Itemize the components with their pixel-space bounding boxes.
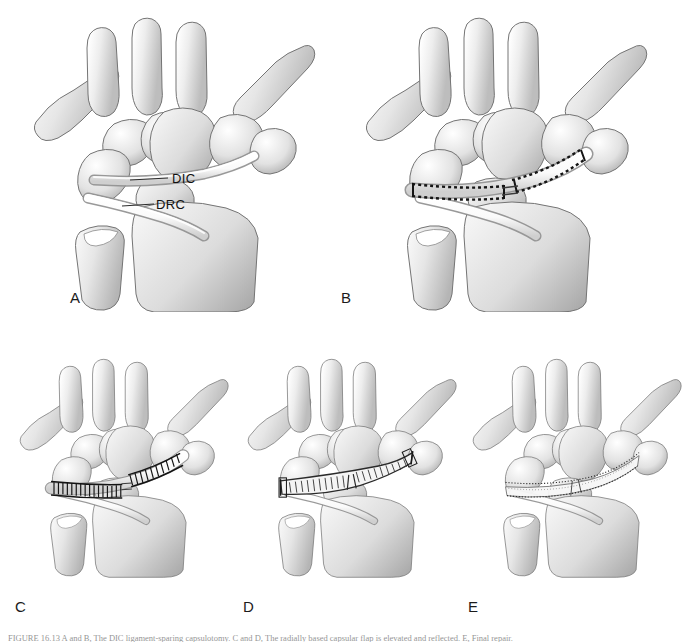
- panel-d-illustration: [236, 335, 466, 597]
- panel-c: [8, 335, 238, 597]
- panel-e: [461, 335, 691, 597]
- bone-third-metacarpal: [132, 18, 162, 115]
- bone-fourth-metacarpal: [508, 22, 539, 117]
- panel-a: DIC DRC: [18, 12, 328, 312]
- bone-fourth-metacarpal: [578, 362, 601, 432]
- panel-b-illustration: [350, 12, 660, 312]
- bone-second-metacarpal: [59, 366, 83, 432]
- panel-e-illustration: [461, 335, 691, 597]
- bone-fifth-metacarpal: [396, 380, 456, 437]
- bone-second-metacarpal: [419, 28, 451, 117]
- panel-a-illustration: [18, 12, 328, 312]
- bone-capitate: [559, 426, 608, 482]
- bone-fifth-metacarpal: [621, 380, 681, 437]
- label-dic: DIC: [172, 172, 196, 185]
- panel-b: [350, 12, 660, 312]
- panel-letter-d: D: [243, 599, 254, 614]
- bone-fourth-metacarpal: [176, 22, 207, 117]
- bone-third-metacarpal: [93, 359, 116, 431]
- bone-triquetrum: [250, 128, 296, 174]
- bone-fifth-metacarpal: [168, 380, 228, 437]
- bone-fifth-metacarpal: [233, 45, 315, 122]
- figure-canvas: DIC DRC A: [0, 0, 696, 642]
- panel-letter-e: E: [468, 599, 478, 614]
- panel-letter-a: A: [70, 290, 80, 305]
- panel-d: [236, 335, 466, 597]
- bone-fourth-metacarpal: [125, 362, 148, 432]
- label-drc: DRC: [156, 198, 185, 211]
- bone-third-metacarpal: [464, 18, 494, 115]
- panel-c-illustration: [8, 335, 238, 597]
- bone-second-metacarpal: [287, 366, 311, 432]
- bone-third-metacarpal: [546, 359, 569, 431]
- bone-second-metacarpal: [87, 28, 119, 117]
- figure-caption: FIGURE 16.13 A and B, The DIC ligament-s…: [8, 633, 692, 642]
- bone-third-metacarpal: [321, 359, 344, 431]
- panel-letter-b: B: [341, 290, 351, 305]
- bone-triquetrum: [408, 441, 442, 475]
- bone-second-metacarpal: [512, 366, 536, 432]
- panel-letter-c: C: [15, 599, 26, 614]
- bone-fifth-metacarpal: [565, 45, 647, 122]
- bone-fourth-metacarpal: [353, 362, 376, 432]
